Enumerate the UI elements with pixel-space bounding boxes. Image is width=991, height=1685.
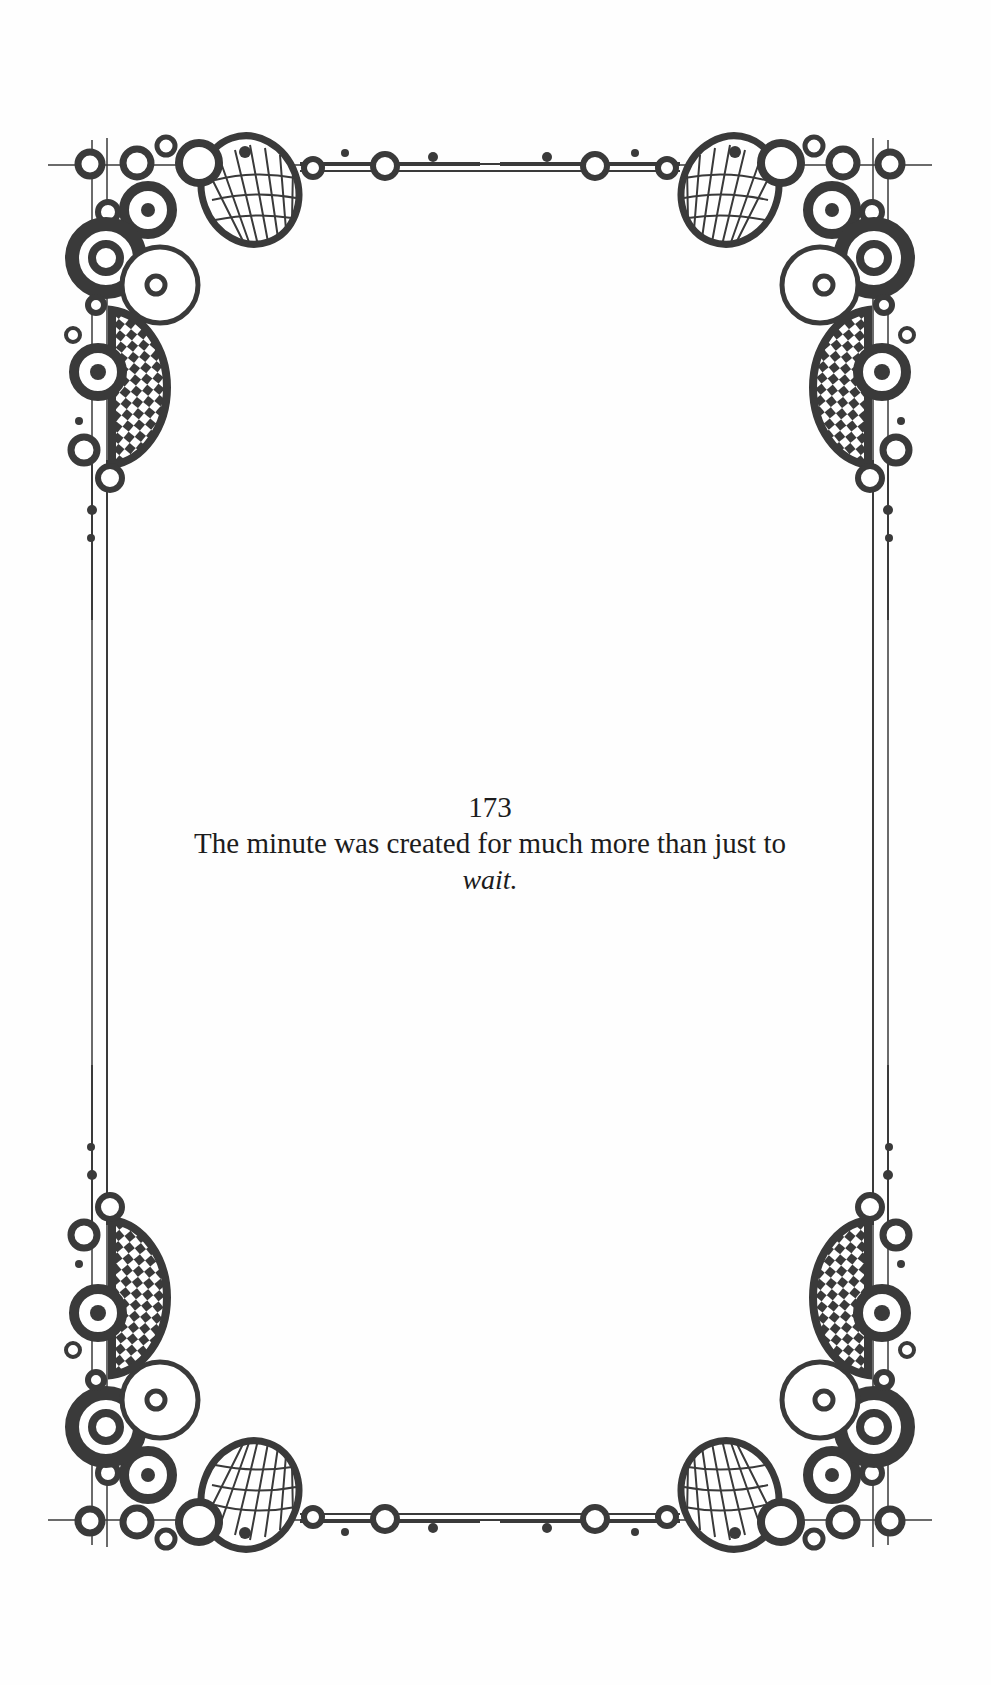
corner-ornament-bottom-left — [48, 1065, 520, 1563]
corner-ornament-bottom-right — [460, 1065, 932, 1563]
page-number: 173 — [100, 790, 880, 824]
quote-emphasis: wait. — [100, 862, 880, 898]
corner-ornament-top-right — [460, 122, 932, 620]
corner-ornament-top-left — [48, 122, 520, 620]
quote-text: The minute was created for much more tha… — [100, 824, 880, 862]
book-page: 173 The minute was created for much more… — [0, 0, 991, 1685]
page-content: 173 The minute was created for much more… — [100, 790, 880, 898]
